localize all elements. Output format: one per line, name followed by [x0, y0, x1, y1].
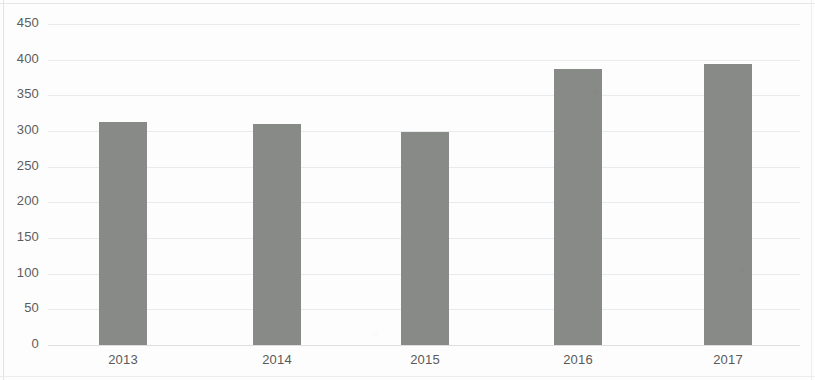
- bar: [704, 64, 752, 345]
- y-axis-tick-label: 150: [0, 229, 39, 244]
- y-axis-tick-label: 50: [0, 300, 39, 315]
- gridline: [48, 60, 800, 61]
- y-axis-tick-label: 350: [0, 86, 39, 101]
- x-axis-tick-label: 2017: [668, 352, 788, 367]
- y-axis-tick-label: 300: [0, 122, 39, 137]
- bar: [401, 132, 449, 345]
- x-axis-tick-label: 2013: [63, 352, 183, 367]
- y-axis-tick-label: 200: [0, 193, 39, 208]
- x-axis-tick-label: 2015: [365, 352, 485, 367]
- bar: [253, 124, 301, 345]
- gridline: [48, 345, 800, 346]
- y-axis-tick-label: 250: [0, 158, 39, 173]
- gridline: [48, 95, 800, 96]
- x-axis-tick-label: 2016: [518, 352, 638, 367]
- bar-chart: 050100150200250300350400450 201320142015…: [0, 0, 815, 380]
- y-axis-tick-label: 400: [0, 51, 39, 66]
- y-axis-tick-label: 100: [0, 265, 39, 280]
- gridline: [48, 24, 800, 25]
- y-axis-tick-label: 450: [0, 15, 39, 30]
- y-axis-tick-label: 0: [0, 336, 39, 351]
- bar: [99, 122, 147, 345]
- page-border-right: [811, 0, 812, 380]
- x-axis-tick-label: 2014: [217, 352, 337, 367]
- bar: [554, 69, 602, 345]
